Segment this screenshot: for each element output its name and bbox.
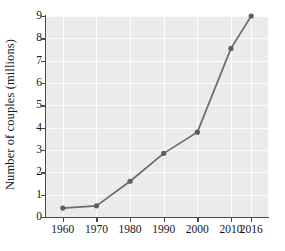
chart-figure: Number of couples (millions) 0123456789 … [0, 0, 285, 251]
x-tick-label: 1980 [119, 224, 142, 236]
x-tick-label: 1990 [152, 224, 175, 236]
x-tick-label: 1970 [85, 224, 108, 236]
x-axis-tick-labels: 1960197019801990200020102016 [0, 0, 285, 251]
x-tick-label: 2000 [186, 224, 209, 236]
clipped-caption-text: ........ .. ..... .. ..... ......... ...… [10, 243, 275, 251]
x-tick-label: 1960 [51, 224, 74, 236]
x-tick-label: 2016 [240, 224, 263, 236]
